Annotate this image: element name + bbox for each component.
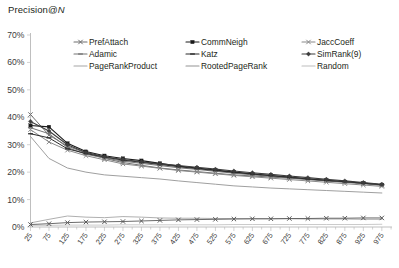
data-point-marker — [47, 125, 50, 128]
legend-label: PrefAttach — [89, 37, 128, 47]
y-axis-group: 0%10%20%30%40%50%60%70% — [7, 30, 30, 232]
legend-item-jacccoeff[interactable]: JaccCoeff — [302, 37, 355, 47]
data-point-marker — [28, 119, 32, 123]
data-point-marker — [47, 140, 51, 144]
series-line — [31, 130, 382, 187]
x-axis-group: 2575125175225275325375425475525575625675… — [22, 227, 392, 246]
series-line — [31, 136, 382, 193]
x-axis-tick-label: 675 — [260, 231, 274, 246]
y-axis-tick-label: 20% — [7, 167, 25, 177]
series-line — [31, 224, 382, 225]
x-axis-tick-label: 925 — [353, 231, 367, 246]
data-point-marker — [29, 124, 32, 127]
data-point-marker — [191, 40, 194, 43]
data-point-marker — [306, 52, 310, 56]
legend-item-pagerankproduct[interactable]: PageRankProduct — [74, 61, 158, 71]
legend-label: Adamic — [89, 49, 117, 59]
y-axis-tick-label: 40% — [7, 112, 25, 122]
x-axis-tick-label: 175 — [75, 231, 89, 246]
chart-legend: PrefAttachCommNeighJaccCoeffAdamicKatzSi… — [74, 37, 361, 71]
x-axis-tick-marks — [31, 227, 392, 231]
x-axis-tick-label: 275 — [112, 231, 126, 246]
legend-item-commneigh[interactable]: CommNeigh — [186, 37, 248, 47]
legend-label: JaccCoeff — [317, 37, 355, 47]
x-axis-tick-label: 725 — [279, 231, 293, 246]
x-axis-tick-label: 425 — [168, 231, 182, 246]
series-rootedpagerank — [31, 136, 382, 193]
series-line — [31, 128, 382, 185]
y-axis-tick-labels: 0%10%20%30%40%50%60%70% — [7, 30, 25, 232]
series-adamic — [28, 128, 384, 185]
x-axis-tick-label: 75 — [41, 231, 53, 243]
legend-item-adamic[interactable]: Adamic — [74, 49, 117, 59]
x-axis-tick-label: 475 — [186, 231, 200, 246]
x-axis-tick-label: 875 — [334, 231, 348, 246]
y-axis-tick-label: 60% — [7, 57, 25, 67]
legend-label: PageRankProduct — [89, 61, 158, 71]
legend-label: Katz — [201, 49, 218, 59]
x-axis-tick-label: 25 — [22, 231, 34, 243]
x-axis-tick-labels: 2575125175225275325375425475525575625675… — [22, 231, 385, 246]
y-axis-tick-label: 10% — [7, 195, 25, 205]
x-axis-tick-label: 225 — [94, 231, 108, 246]
y-axis-tick-label: 30% — [7, 140, 25, 150]
x-axis-tick-label: 825 — [316, 231, 330, 246]
legend-item-katz[interactable]: Katz — [186, 49, 218, 59]
series-commneigh — [29, 124, 384, 187]
x-axis-tick-label: 775 — [297, 231, 311, 246]
x-axis-tick-label: 575 — [223, 231, 237, 246]
legend-label: SimRank(9) — [317, 49, 361, 59]
chart-figure: Precision@N 0%10%20%30%40%50%60%70% 2575… — [0, 0, 399, 268]
x-axis-tick-label: 125 — [57, 231, 71, 246]
legend-label: RootedPageRank — [201, 61, 268, 71]
x-axis-tick-label: 525 — [205, 231, 219, 246]
series-layer — [28, 112, 384, 226]
x-axis-tick-label: 325 — [131, 231, 145, 246]
y-axis-tick-label: 0% — [12, 222, 25, 232]
x-axis-tick-label: 975 — [371, 231, 385, 246]
precision-at-n-line-chart: 0%10%20%30%40%50%60%70% 2575125175225275… — [0, 0, 399, 268]
legend-label: CommNeigh — [201, 37, 248, 47]
legend-label: Random — [317, 61, 349, 71]
legend-item-prefattach[interactable]: PrefAttach — [74, 37, 128, 47]
legend-item-random[interactable]: Random — [302, 61, 349, 71]
x-axis-tick-label: 375 — [149, 231, 163, 246]
legend-item-simrank-9-[interactable]: SimRank(9) — [302, 49, 361, 59]
series-line — [31, 134, 382, 185]
x-axis-tick-label: 625 — [242, 231, 256, 246]
series-katz — [28, 134, 384, 185]
series-random — [31, 224, 382, 225]
legend-item-rootedpagerank[interactable]: RootedPageRank — [186, 61, 268, 71]
y-axis-tick-label: 50% — [7, 85, 25, 95]
y-axis-tick-label: 70% — [7, 30, 25, 40]
